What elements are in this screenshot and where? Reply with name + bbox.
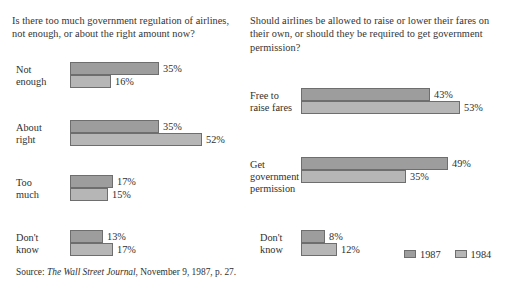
panel-fares: Should airlines be allowed to raise or l…: [250, 0, 505, 54]
bar-row-1987: 8%: [301, 230, 360, 243]
bar-row-1984: 52%: [70, 133, 225, 146]
bar-1987: [301, 88, 430, 101]
legend-label-1984: 1984: [471, 249, 492, 260]
bars: 49% 35%: [301, 157, 471, 183]
bar-1987: [301, 230, 325, 243]
bar-value-1987: 13%: [103, 230, 126, 243]
bar-1987: [301, 157, 448, 170]
bars: 43% 53%: [301, 88, 483, 114]
bar-row-1987: 13%: [70, 230, 136, 243]
bar-row-1984: 35%: [301, 170, 471, 183]
question-text-right: Should airlines be allowed to raise or l…: [250, 0, 505, 54]
bars: 8% 12%: [301, 230, 360, 256]
category-label: About right: [16, 122, 66, 146]
chart-page: Is there too much government regulation …: [0, 0, 505, 288]
bar-value-1984: 35%: [406, 170, 429, 183]
bar-value-1984: 12%: [337, 243, 360, 256]
bar-row-1984: 17%: [70, 243, 136, 256]
legend-item-1984: 1984: [455, 248, 492, 261]
bar-value-1984: 15%: [108, 188, 131, 201]
bar-value-1987: 17%: [113, 175, 136, 188]
bar-value-1984: 17%: [113, 243, 136, 256]
bar-value-1984: 16%: [111, 75, 134, 88]
chart-legend: 1987 1984: [404, 248, 505, 261]
bar-value-1987: 8%: [325, 230, 343, 243]
bar-row-1984: 12%: [301, 243, 360, 256]
source-publication: The Wall Street Journal: [47, 267, 136, 277]
bar-1984: [70, 133, 202, 146]
bar-1984: [301, 170, 406, 183]
question-text-left: Is there too much government regulation …: [12, 0, 240, 41]
bar-row-1984: 16%: [70, 75, 182, 88]
bars: 35% 52%: [70, 120, 225, 146]
bar-value-1987: 49%: [448, 157, 471, 170]
bar-row-1984: 53%: [301, 101, 483, 114]
source-note: Source: The Wall Street Journal, Novembe…: [16, 266, 236, 278]
bar-1984: [301, 101, 460, 114]
category-label: Too much: [16, 177, 66, 201]
source-prefix: Source:: [16, 267, 47, 277]
bars: 17% 15%: [70, 175, 136, 201]
legend-swatch-icon-1987: [404, 250, 416, 258]
bar-row-1987: 43%: [301, 88, 483, 101]
category-label: Don't know: [260, 232, 305, 256]
legend-item-1987: 1987: [404, 248, 441, 261]
bar-row-1984: 15%: [70, 188, 136, 201]
category-label: Don't know: [16, 232, 66, 256]
legend-label-1987: 1987: [420, 249, 441, 260]
panel-regulation: Is there too much government regulation …: [12, 0, 240, 41]
bar-value-1984: 53%: [460, 101, 483, 114]
category-label: Free to raise fares: [250, 90, 302, 114]
bar-row-1987: 35%: [70, 120, 225, 133]
bar-1984: [70, 188, 108, 201]
bar-row-1987: 17%: [70, 175, 136, 188]
category-label: Get government permission: [250, 159, 302, 195]
bar-value-1987: 35%: [159, 62, 182, 75]
bar-1987: [70, 175, 113, 188]
category-label: Not enough: [16, 64, 66, 88]
bar-value-1984: 52%: [202, 133, 225, 146]
bar-1987: [70, 62, 159, 75]
bar-1987: [70, 120, 159, 133]
legend-swatch-icon-1984: [455, 250, 467, 258]
bar-value-1987: 35%: [159, 120, 182, 133]
source-suffix: , November 9, 1987, p. 27.: [136, 267, 237, 277]
bars: 13% 17%: [70, 230, 136, 256]
bars: 35% 16%: [70, 62, 182, 88]
bar-value-1987: 43%: [430, 88, 453, 101]
bar-row-1987: 35%: [70, 62, 182, 75]
bar-1984: [70, 75, 111, 88]
bar-1987: [70, 230, 103, 243]
bar-1984: [301, 243, 337, 256]
bar-row-1987: 49%: [301, 157, 471, 170]
bar-1984: [70, 243, 113, 256]
